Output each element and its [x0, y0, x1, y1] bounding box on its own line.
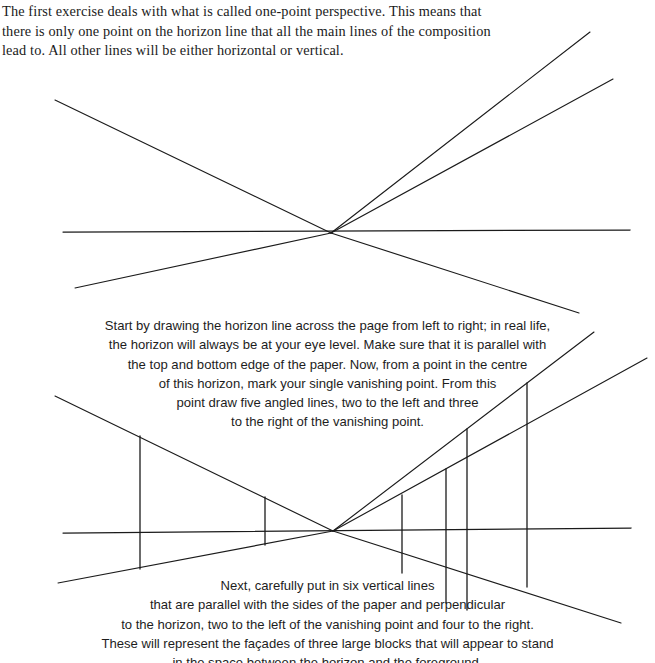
caption-middle-line-4: of this horizon, mark your single vanish… — [0, 374, 655, 393]
page-canvas: The first exercise deals with what is ca… — [0, 0, 655, 663]
intro-paragraph: The first exercise deals with what is ca… — [2, 2, 512, 61]
caption-middle-line-1: Start by drawing the horizon line across… — [0, 316, 655, 335]
ray-upper-left — [55, 100, 331, 233]
horizon-line — [63, 230, 630, 232]
caption-middle-block: Start by drawing the horizon line across… — [0, 316, 655, 432]
ray-lower-right — [331, 233, 579, 313]
caption-bottom-line-1: Next, carefully put in six vertical line… — [0, 576, 655, 595]
caption-bottom-line-4: These will represent the façades of thre… — [0, 634, 655, 653]
horizon-line — [63, 528, 631, 533]
caption-middle-line-3: the top and bottom edge of the paper. No… — [0, 355, 655, 374]
caption-bottom-line-2: that are parallel with the sides of the … — [0, 595, 655, 614]
caption-bottom-block: Next, carefully put in six vertical line… — [0, 576, 655, 663]
caption-middle-line-5: point draw five angled lines, two to the… — [0, 393, 655, 412]
ray-lower-left — [75, 233, 331, 288]
ray-upper-right-shallow — [331, 79, 613, 233]
caption-bottom-line-3: to the horizon, two to the left of the v… — [0, 615, 655, 634]
caption-bottom-line-5: in the space between the horizon and the… — [0, 653, 655, 663]
ray-upper-right-steep — [331, 32, 590, 233]
caption-middle-line-2: the horizon will always be at your eye l… — [0, 335, 655, 354]
caption-middle-line-6: to the right of the vanishing point. — [0, 412, 655, 431]
